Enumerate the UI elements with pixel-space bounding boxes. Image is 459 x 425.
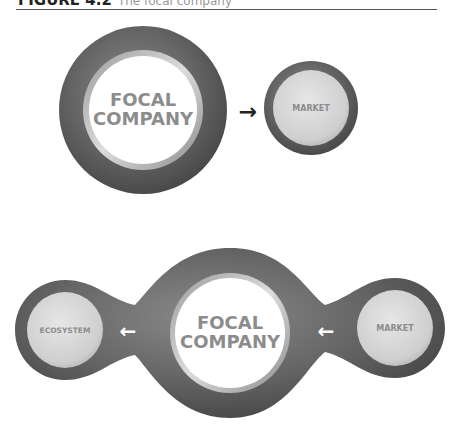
ecosystem-label: ECOSYSTEM	[40, 326, 91, 335]
focal-label-bottom-line2: COMPANY	[180, 331, 281, 352]
focal-label-bottom-line1: FOCAL	[197, 312, 263, 333]
diagram-canvas: FOCAL COMPANY → MARKET ECOSYSTEM FOCAL C…	[0, 0, 459, 425]
focal-label-line1: FOCAL	[110, 89, 176, 110]
arrow-right-icon: →	[239, 99, 257, 124]
arrow-left-icon: ←	[120, 319, 137, 343]
bottom-diagram: ECOSYSTEM FOCAL COMPANY MARKET ← ←	[15, 248, 445, 418]
market-label-bottom: MARKET	[376, 324, 414, 333]
top-diagram: FOCAL COMPANY → MARKET	[59, 26, 358, 194]
focal-label-line2: COMPANY	[93, 108, 194, 129]
market-label: MARKET	[292, 104, 330, 113]
arrow-left-icon-right: ←	[318, 319, 335, 343]
